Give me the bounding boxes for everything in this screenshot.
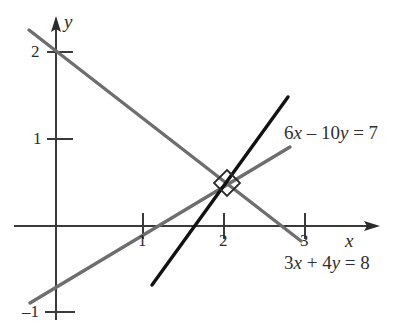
line-perpendicular [152, 97, 288, 285]
eq-bottom-y: y [332, 252, 340, 273]
eq-bottom-plus: + [302, 252, 322, 273]
x-tick-label-1: 1 [138, 232, 147, 249]
eq-top-minus: – [302, 122, 321, 143]
eq-bottom-equals: = [340, 252, 360, 273]
eq-top-x: x [294, 122, 302, 143]
eq-bottom-c: 8 [360, 252, 370, 273]
equation-label-6x-10y-7: 6x – 10y = 7 [284, 123, 378, 142]
eq-top-b: 10 [321, 122, 340, 143]
eq-top-a: 6 [284, 122, 294, 143]
y-tick-label-2: 2 [31, 43, 40, 60]
eq-bottom-b: 4 [322, 252, 332, 273]
y-tick-label-minus-1: –1 [22, 303, 39, 320]
y-tick-label-1: 1 [33, 130, 42, 147]
x-tick-label-2: 2 [219, 232, 228, 249]
eq-bottom-x: x [294, 252, 302, 273]
eq-top-equals: = [348, 122, 368, 143]
figure-graph: 2 1 –1 1 2 3 y x 6x – 10y = 7 3x + 4y = … [0, 0, 415, 331]
y-axis-label: y [64, 12, 72, 31]
x-tick-label-3: 3 [300, 232, 309, 249]
x-axis-label: x [345, 231, 353, 250]
equation-label-3x-4y-8: 3x + 4y = 8 [284, 253, 370, 272]
eq-top-c: 7 [369, 122, 379, 143]
eq-bottom-a: 3 [284, 252, 294, 273]
plot-canvas [0, 0, 415, 331]
